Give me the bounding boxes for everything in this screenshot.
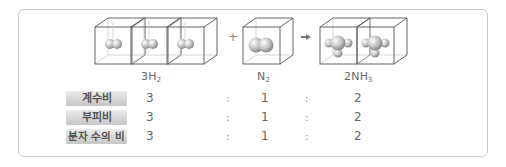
ratio-separator: : bbox=[305, 91, 308, 106]
ratio-separator: : bbox=[305, 110, 308, 125]
ratio-value-nh3: 2 bbox=[354, 110, 362, 125]
row-label-badge: 계수비 bbox=[66, 91, 127, 106]
ratio-value-h2: 3 bbox=[146, 110, 154, 125]
ratio-row-coefficient: 계수비 3 : 1 : 2 bbox=[0, 91, 506, 107]
h2-cube-1 bbox=[95, 18, 145, 64]
ratio-value-h2: 3 bbox=[146, 91, 154, 106]
n2-cube bbox=[243, 18, 293, 64]
formula-h2: 3H2 bbox=[141, 70, 161, 84]
ratio-value-h2: 3 bbox=[146, 129, 154, 144]
ratio-separator: : bbox=[226, 129, 229, 144]
ratio-value-n2: 1 bbox=[261, 129, 269, 144]
n2-molecule-icon bbox=[249, 38, 274, 53]
h2-molecule-icon bbox=[141, 39, 158, 49]
ratio-row-volume: 부피비 3 : 1 : 2 bbox=[0, 110, 506, 126]
h2-cube-3 bbox=[167, 18, 217, 64]
ratio-separator: : bbox=[226, 91, 229, 106]
reaction-arrow-icon bbox=[301, 34, 311, 40]
formula-n2: N2 bbox=[257, 70, 270, 84]
nh3-molecule-icon bbox=[362, 36, 390, 58]
h2-molecule-icon bbox=[105, 39, 122, 49]
plus-sign: + bbox=[228, 30, 238, 44]
ratio-row-molecule-count: 분자 수의 비 3 : 1 : 2 bbox=[0, 129, 506, 145]
h2-molecule-icon bbox=[177, 39, 194, 49]
formula-nh3: 2NH3 bbox=[344, 70, 373, 84]
ratio-value-n2: 1 bbox=[261, 91, 269, 106]
ratio-separator: : bbox=[305, 129, 308, 144]
ratio-separator: : bbox=[226, 110, 229, 125]
nh3-cube-2 bbox=[357, 18, 407, 64]
ratio-value-nh3: 2 bbox=[354, 91, 362, 106]
row-label-badge: 분자 수의 비 bbox=[66, 129, 127, 144]
ratio-value-nh3: 2 bbox=[354, 129, 362, 144]
row-label-badge: 부피비 bbox=[66, 110, 127, 125]
ratio-value-n2: 1 bbox=[261, 110, 269, 125]
h2-cube-2 bbox=[131, 18, 181, 64]
nh3-molecule-icon bbox=[325, 36, 353, 58]
